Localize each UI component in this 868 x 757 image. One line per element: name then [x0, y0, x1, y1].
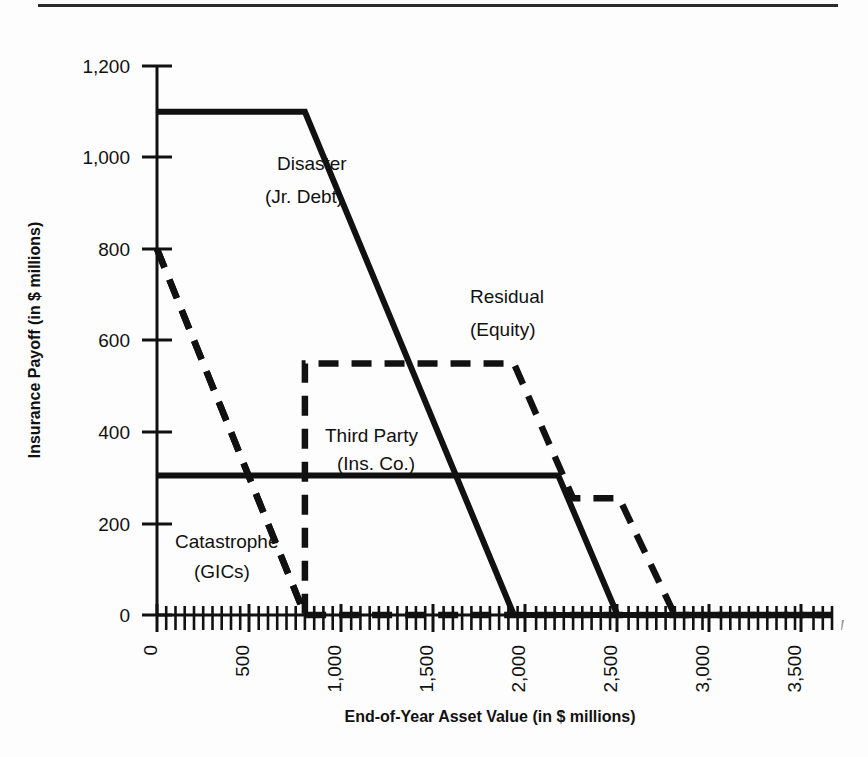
figure-page: 1,200 1,000 800 600 400 200 0 Insurance … [0, 0, 868, 757]
y-tick-label-200: 200 [98, 514, 130, 535]
annotation-catastrophe-line2: (GICs) [194, 561, 250, 582]
x-tick-label-0: 0 [140, 645, 161, 656]
annotation-catastrophe-line1: Catastrophe [175, 531, 279, 552]
annotation-disaster-line2: (Jr. Debt) [265, 186, 343, 207]
x-tick-labels: 0 500 1,000 1,500 2,000 2,500 3,000 3,50… [140, 645, 805, 693]
x-tick-label-500: 500 [232, 645, 253, 677]
y-tick-labels: 1,200 1,000 800 600 400 200 0 [82, 56, 130, 626]
annotation-residual-line1: Residual [470, 286, 544, 307]
annotation-third-party-line2: (Ins. Co.) [337, 453, 415, 474]
series-annotations: Disaster (Jr. Debt) Residual (Equity) Th… [175, 153, 544, 582]
y-tick-label-600: 600 [98, 330, 130, 351]
y-axis [142, 66, 172, 616]
scan-speck [841, 620, 844, 630]
x-tick-label-3000: 3,000 [692, 645, 713, 693]
y-tick-label-800: 800 [98, 239, 130, 260]
x-tick-label-1500: 1,500 [416, 645, 437, 693]
y-tick-label-400: 400 [98, 422, 130, 443]
y-axis-title: Insurance Payoff (in $ millions) [26, 222, 43, 459]
y-tick-label-1000: 1,000 [82, 147, 130, 168]
x-tick-label-1000: 1,000 [324, 645, 345, 693]
annotation-disaster-line1: Disaster [277, 153, 347, 174]
y-tick-label-0: 0 [119, 605, 130, 626]
x-tick-label-3500: 3,500 [784, 645, 805, 693]
y-tick-label-1200: 1,200 [82, 56, 130, 77]
x-tick-label-2500: 2,500 [600, 645, 621, 693]
x-tick-label-2000: 2,000 [508, 645, 529, 693]
x-axis-title: End-of-Year Asset Value (in $ millions) [344, 708, 635, 725]
annotation-residual-line2: (Equity) [470, 319, 535, 340]
payoff-diagram-chart: 1,200 1,000 800 600 400 200 0 Insurance … [0, 0, 868, 757]
annotation-third-party-line1: Third Party [325, 425, 418, 446]
